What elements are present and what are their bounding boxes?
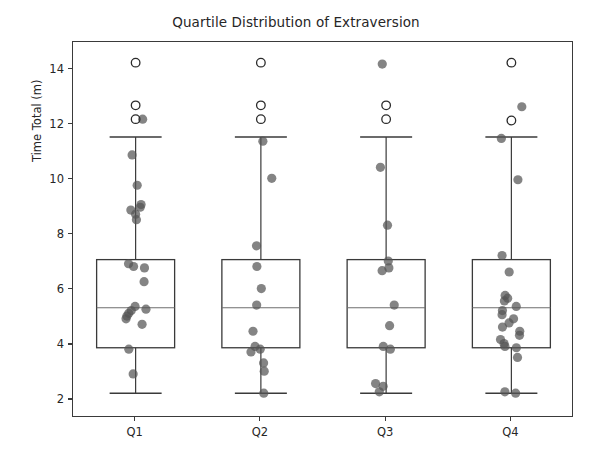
data-point	[257, 284, 266, 293]
data-point	[139, 277, 148, 286]
data-point	[497, 134, 506, 143]
data-point	[248, 327, 257, 336]
data-point	[515, 331, 524, 340]
boxplot-group-Q2	[222, 58, 300, 397]
data-point	[500, 342, 509, 351]
data-point	[512, 302, 521, 311]
data-point	[128, 150, 137, 159]
outlier-marker	[131, 58, 140, 67]
x-tick-label-q2: Q2	[230, 425, 290, 439]
data-point	[133, 181, 142, 190]
data-point	[390, 300, 399, 309]
boxplot-group-Q4	[472, 58, 550, 397]
data-point	[140, 263, 149, 272]
outlier-marker	[257, 101, 266, 110]
outlier-marker	[131, 101, 140, 110]
data-point	[513, 353, 522, 362]
outlier-marker	[257, 58, 266, 67]
data-point	[505, 267, 514, 276]
y-tick-label: 4	[30, 337, 64, 351]
data-point	[385, 321, 394, 330]
x-tick-label-q4: Q4	[480, 425, 540, 439]
y-tick-label: 2	[30, 392, 64, 406]
plot-area: Time Total (m)	[72, 41, 573, 417]
data-point	[259, 389, 268, 398]
boxplot-group-Q1	[97, 58, 175, 393]
data-point	[386, 345, 395, 354]
data-point	[497, 251, 506, 260]
data-point	[513, 175, 522, 184]
data-point	[129, 262, 138, 271]
y-tick-label: 6	[30, 282, 64, 296]
x-tick-label-q1: Q1	[105, 425, 165, 439]
data-point	[383, 221, 392, 230]
y-tick-label: 8	[30, 227, 64, 241]
data-point	[141, 305, 150, 314]
chart-title: Quartile Distribution of Extraversion	[0, 14, 592, 30]
data-point	[378, 59, 387, 68]
data-point	[511, 389, 520, 398]
data-point	[252, 241, 261, 250]
data-point	[376, 163, 385, 172]
outlier-marker	[507, 116, 516, 125]
data-point	[378, 266, 387, 275]
outlier-marker	[257, 115, 266, 124]
y-tick-label: 10	[30, 172, 64, 186]
boxplot-group-Q3	[347, 59, 425, 396]
y-axis-label: Time Total (m)	[30, 80, 44, 163]
data-point	[256, 345, 265, 354]
data-point	[129, 369, 138, 378]
data-point	[246, 347, 255, 356]
data-point	[498, 322, 507, 331]
data-point	[132, 215, 141, 224]
data-point	[375, 387, 384, 396]
data-point	[260, 367, 269, 376]
boxplot-svg	[73, 42, 574, 418]
figure-canvas: Quartile Distribution of Extraversion Ti…	[0, 0, 592, 462]
data-point	[121, 314, 130, 323]
data-point	[517, 102, 526, 111]
data-point	[258, 137, 267, 146]
data-point	[124, 345, 133, 354]
data-point	[252, 300, 261, 309]
data-point	[267, 174, 276, 183]
y-tick-label: 14	[30, 62, 64, 76]
outlier-marker	[382, 115, 391, 124]
outlier-marker	[382, 101, 391, 110]
x-tick-label-q3: Q3	[355, 425, 415, 439]
data-point	[500, 387, 509, 396]
data-point	[137, 320, 146, 329]
data-point	[252, 262, 261, 271]
data-point	[259, 358, 268, 367]
outlier-marker	[507, 58, 516, 67]
data-point	[497, 310, 506, 319]
data-point	[500, 296, 509, 305]
data-point	[512, 343, 521, 352]
